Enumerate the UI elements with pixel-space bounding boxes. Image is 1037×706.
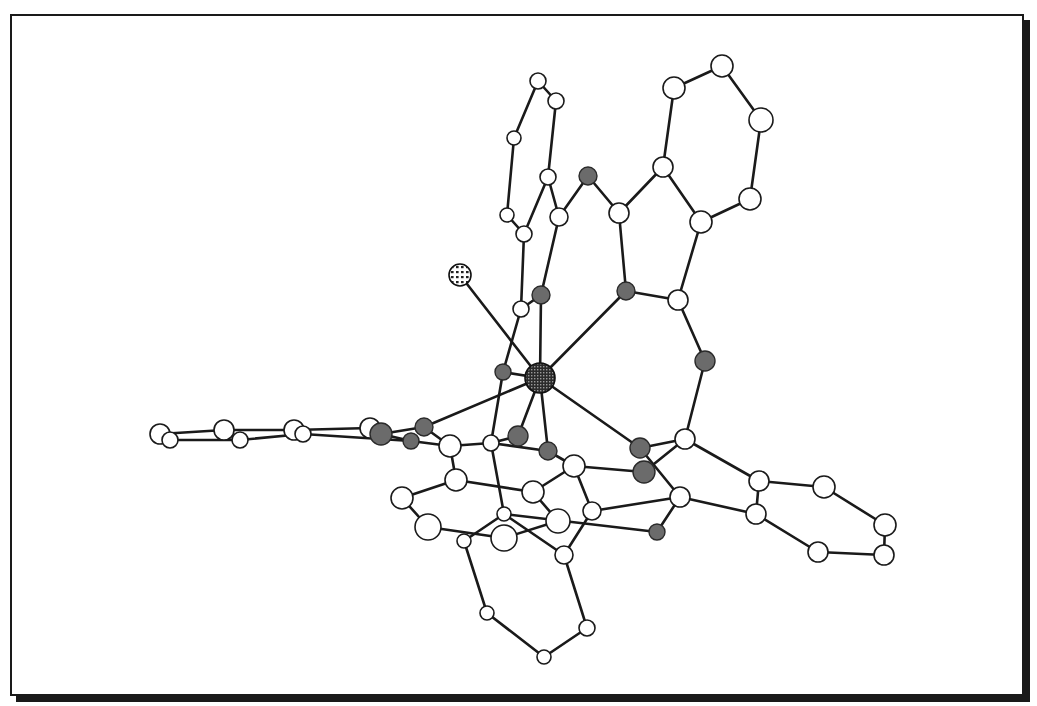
bond-C11-C16 bbox=[678, 222, 701, 300]
atom-carbon-C23 bbox=[295, 426, 311, 442]
atom-carbon-C35 bbox=[563, 455, 585, 477]
bond-layer bbox=[160, 66, 885, 657]
atom-carbon-C15 bbox=[739, 188, 761, 210]
atom-carbon-C41 bbox=[670, 487, 690, 507]
atom-carbon-C14 bbox=[749, 108, 773, 132]
atom-carbon-C11 bbox=[690, 211, 712, 233]
atom-carbon-C43 bbox=[746, 504, 766, 524]
bond-C2-C4 bbox=[548, 101, 556, 177]
atom-carbon-C46 bbox=[874, 545, 894, 565]
atom-heteroatom-N3 bbox=[695, 351, 715, 371]
atom-halide-X bbox=[449, 264, 471, 286]
atom-heteroatom-N2 bbox=[617, 282, 635, 300]
atom-carbon-C12 bbox=[663, 77, 685, 99]
atom-carbon-C45 bbox=[874, 514, 896, 536]
atom-heteroatom-N6 bbox=[415, 418, 433, 436]
atom-carbon-C21 bbox=[232, 432, 248, 448]
atom-carbon-C34 bbox=[457, 534, 471, 548]
atom-carbon-C28 bbox=[391, 487, 413, 509]
atom-metal-M bbox=[525, 363, 555, 393]
bond-N3-C17 bbox=[685, 361, 705, 439]
bond-C1-C3 bbox=[514, 81, 538, 138]
bond-C3-C5 bbox=[507, 138, 514, 215]
atom-carbon-C26 bbox=[483, 435, 499, 451]
bond-C26-C31 bbox=[491, 443, 504, 514]
atom-heteroatom-N10 bbox=[539, 442, 557, 460]
atom-carbon-C5 bbox=[500, 208, 514, 222]
atom-carbon-C33 bbox=[546, 509, 570, 533]
bond-C47-C43 bbox=[756, 514, 818, 552]
bond-C4-C6 bbox=[524, 177, 548, 234]
bond-C6-C8 bbox=[521, 234, 524, 309]
molecular-structure-diagram bbox=[0, 0, 1037, 706]
bond-C34-C38 bbox=[464, 541, 487, 613]
bond-N5-C26 bbox=[491, 372, 503, 443]
atom-heteroatom-N9 bbox=[508, 426, 528, 446]
atom-carbon-C38 bbox=[480, 606, 494, 620]
atom-carbon-C13 bbox=[711, 55, 733, 77]
atom-carbon-C3 bbox=[507, 131, 521, 145]
atom-carbon-C20 bbox=[214, 420, 234, 440]
atom-carbon-C31 bbox=[497, 507, 511, 521]
bond-C41-C43 bbox=[680, 497, 756, 514]
atom-carbon-C16 bbox=[668, 290, 688, 310]
bond-C39-C37 bbox=[564, 555, 587, 628]
atom-carbon-C25 bbox=[439, 435, 461, 457]
bond-C9-N2 bbox=[619, 213, 626, 291]
atom-carbon-C17 bbox=[675, 429, 695, 449]
atom-carbon-C1 bbox=[530, 73, 546, 89]
atom-carbon-C29 bbox=[415, 514, 441, 540]
atom-carbon-C19 bbox=[162, 432, 178, 448]
bond-C10-C12 bbox=[663, 88, 674, 167]
atom-heteroatom-N12 bbox=[633, 461, 655, 483]
bond-C7-N1 bbox=[541, 217, 559, 295]
atom-carbon-C2 bbox=[548, 93, 564, 109]
atom-carbon-C42 bbox=[749, 471, 769, 491]
atom-heteroatom-N1 bbox=[532, 286, 550, 304]
atom-carbon-C40 bbox=[537, 650, 551, 664]
bond-M-N2 bbox=[540, 291, 626, 378]
atom-carbon-C9 bbox=[609, 203, 629, 223]
bond-M-N6 bbox=[424, 378, 540, 427]
bond-C17-C42 bbox=[685, 439, 759, 481]
atom-carbon-C10 bbox=[653, 157, 673, 177]
atom-heteroatom-N11 bbox=[630, 438, 650, 458]
atom-heteroatom-N5 bbox=[495, 364, 511, 380]
atom-layer bbox=[150, 55, 896, 664]
atom-carbon-C47 bbox=[808, 542, 828, 562]
bond-C38-C40 bbox=[487, 613, 544, 657]
bond-M-N11 bbox=[540, 378, 640, 448]
atom-carbon-C8 bbox=[513, 301, 529, 317]
atom-carbon-C39 bbox=[579, 620, 595, 636]
atom-carbon-C44 bbox=[813, 476, 835, 498]
atom-heteroatom-N8 bbox=[403, 433, 419, 449]
atom-carbon-C32 bbox=[491, 525, 517, 551]
atom-carbon-C6 bbox=[516, 226, 532, 242]
bond-M-X bbox=[460, 275, 540, 378]
bond-C8-N5 bbox=[503, 309, 521, 372]
atom-carbon-C37 bbox=[555, 546, 573, 564]
atom-carbon-C27 bbox=[445, 469, 467, 491]
atom-carbon-C36 bbox=[583, 502, 601, 520]
atom-heteroatom-N7 bbox=[370, 423, 392, 445]
atom-carbon-C4 bbox=[540, 169, 556, 185]
atom-carbon-C30 bbox=[522, 481, 544, 503]
atom-heteroatom-N4 bbox=[579, 167, 597, 185]
atom-heteroatom-N13 bbox=[649, 524, 665, 540]
bond-C36-C41 bbox=[592, 497, 680, 511]
atom-carbon-C7 bbox=[550, 208, 568, 226]
